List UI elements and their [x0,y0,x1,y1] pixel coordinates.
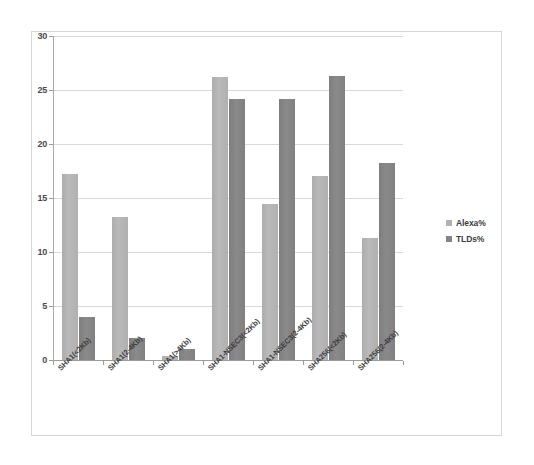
bar-alexa [362,238,378,360]
bar-group [53,36,103,360]
x-tick-mark [253,361,254,365]
y-tick-mark-25 [49,90,53,91]
y-axis-labels: 051015202530 [26,36,47,361]
bar-group [203,36,253,360]
legend-swatch-icon [446,220,452,226]
legend-item: Alexa% [446,219,506,228]
x-tick-mark [303,361,304,365]
bar-tlds [329,76,345,360]
x-tick-mark [203,361,204,365]
y-tick-label-0: 0 [26,356,47,365]
x-axis-labels: SHA1(<2Kb)SHA1(2-4Kb)SHA1(>4Kb)SHA1-NSEC… [53,366,403,461]
y-tick-label-20: 20 [26,140,47,149]
chart-legend: Alexa%TLDs% [446,219,506,250]
x-tick-mark [153,361,154,365]
x-tick-mark [103,361,104,365]
bar-group [353,36,403,360]
bar-group [303,36,353,360]
legend-swatch-icon [446,236,452,242]
bar-group [253,36,303,360]
y-tick-mark-20 [49,144,53,145]
y-tick-label-10: 10 [26,248,47,257]
bar-alexa [262,204,278,360]
y-tick-mark-5 [49,306,53,307]
x-tick-mark [353,361,354,365]
y-axis-line [53,36,54,361]
gridline-0 [53,360,403,361]
x-tick-mark [403,361,404,365]
legend-label: Alexa% [456,219,486,228]
bar-alexa [312,176,328,360]
y-tick-mark-10 [49,252,53,253]
bar-tlds [229,99,245,360]
bar-alexa [112,217,128,360]
plot-area [53,36,403,360]
y-tick-label-25: 25 [26,86,47,95]
bar-alexa [62,174,78,360]
x-tick-mark [53,361,54,365]
y-tick-label-15: 15 [26,194,47,203]
y-tick-label-5: 5 [26,302,47,311]
y-tick-mark-15 [49,198,53,199]
bar-tlds [279,99,295,360]
legend-item: TLDs% [446,235,506,244]
bar-alexa [212,77,228,360]
legend-label: TLDs% [456,235,484,244]
y-tick-mark-30 [49,36,53,37]
bar-group [153,36,203,360]
bar-group [103,36,153,360]
y-tick-label-30: 30 [26,32,47,41]
